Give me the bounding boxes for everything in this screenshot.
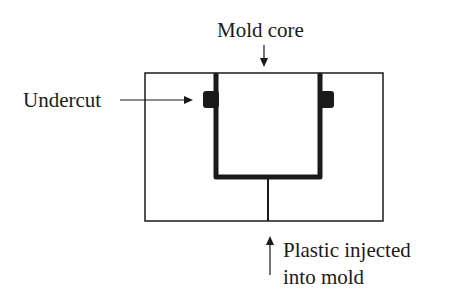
mold-outline (145, 73, 383, 221)
injection-label-line2: into mold (283, 265, 364, 289)
undercut-right (318, 91, 334, 108)
mold-cavity (216, 73, 320, 177)
undercut-label: Undercut (23, 88, 101, 112)
arrowhead-icon (266, 236, 274, 245)
undercut-left (203, 91, 219, 108)
arrowhead-icon (184, 96, 193, 104)
mold-core-label: Mold core (217, 18, 304, 42)
arrowhead-icon (260, 58, 268, 67)
injection-label-line1: Plastic injected (283, 238, 411, 262)
